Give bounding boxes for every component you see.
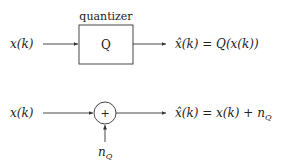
quantizer-block-diagram: quantizer x(k) Q x̂(k) = Q(x(k)): [10, 10, 259, 64]
plus-icon: +: [100, 107, 109, 120]
noise-label: nQ: [98, 145, 113, 161]
top-input-label: x(k): [10, 37, 34, 51]
bottom-output-label: x̂(k) = x(k) + nQ: [175, 106, 272, 122]
bottom-input-label: x(k): [10, 106, 34, 120]
quantizer-caption: quantizer: [79, 10, 133, 23]
quantizer-symbol: Q: [101, 38, 111, 52]
additive-noise-diagram: x(k) + nQ x̂(k) = x(k) + nQ: [10, 102, 272, 161]
quantizer-model-diagram: quantizer x(k) Q x̂(k) = Q(x(k)) x(k) + …: [0, 0, 285, 165]
top-output-label: x̂(k) = Q(x(k)): [175, 37, 259, 51]
